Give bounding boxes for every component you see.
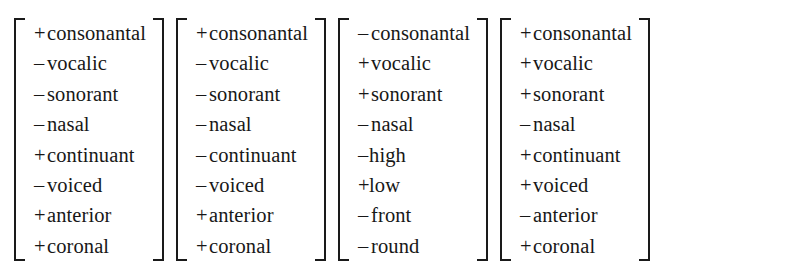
- feature-row: +vocalic: [358, 48, 470, 78]
- right-bracket-icon: [639, 18, 650, 261]
- left-bracket-icon: [14, 18, 25, 261]
- feature-list: +consonantal–vocalic–sonorant–nasal–cont…: [187, 18, 315, 261]
- feature-row: +anterior: [34, 200, 146, 230]
- feature-row: –sonorant: [34, 79, 146, 109]
- feature-row: +sonorant: [358, 79, 470, 109]
- feature-name: sonorant: [209, 79, 280, 109]
- left-bracket-stem: [14, 18, 16, 261]
- feature-name: continuant: [47, 140, 135, 170]
- feature-name: front: [371, 200, 411, 230]
- left-bracket-icon: [338, 18, 349, 261]
- minus-sign: –: [196, 109, 209, 139]
- plus-sign: +: [196, 231, 209, 261]
- feature-row: +consonantal: [520, 18, 632, 48]
- plus-sign: +: [34, 18, 47, 48]
- minus-sign: –: [34, 48, 47, 78]
- feature-row: –nasal: [520, 109, 632, 139]
- feature-name: voiced: [47, 170, 102, 200]
- feature-row: +consonantal: [34, 18, 146, 48]
- feature-row: –high: [358, 140, 470, 170]
- feature-name: vocalic: [371, 48, 431, 78]
- minus-sign: –: [196, 48, 209, 78]
- feature-row: –anterior: [520, 200, 632, 230]
- feature-name: consonantal: [47, 18, 146, 48]
- plus-sign: +: [520, 18, 533, 48]
- feature-name: round: [371, 231, 419, 261]
- left-bracket-stem: [176, 18, 178, 261]
- left-bracket-icon: [176, 18, 187, 261]
- feature-name: anterior: [47, 200, 112, 230]
- feature-row: +sonorant: [520, 79, 632, 109]
- feature-row: +coronal: [520, 231, 632, 261]
- right-bracket-stem: [648, 18, 650, 261]
- minus-sign: –: [520, 109, 533, 139]
- minus-sign: –: [196, 79, 209, 109]
- feature-name: consonantal: [209, 18, 308, 48]
- feature-name: voiced: [209, 170, 264, 200]
- minus-sign: –: [358, 109, 371, 139]
- right-bracket-icon: [153, 18, 164, 261]
- feature-name: high: [369, 140, 406, 170]
- plus-sign: +: [520, 170, 533, 200]
- feature-matrix-row: +consonantal–vocalic–sonorant–nasal+cont…: [0, 0, 800, 279]
- right-bracket-icon: [315, 18, 326, 261]
- feature-name: anterior: [533, 200, 598, 230]
- plus-sign: +: [358, 48, 371, 78]
- minus-sign: –: [520, 200, 533, 230]
- feature-row: –sonorant: [196, 79, 308, 109]
- minus-sign: –: [34, 79, 47, 109]
- feature-name: nasal: [533, 109, 576, 139]
- left-bracket-stem: [338, 18, 340, 261]
- feature-row: –nasal: [196, 109, 308, 139]
- feature-list: –consonantal+vocalic+sonorant–nasal–high…: [349, 18, 477, 261]
- plus-sign: +: [34, 231, 47, 261]
- plus-sign: +: [520, 79, 533, 109]
- feature-matrix-4: +consonantal+vocalic+sonorant–nasal+cont…: [500, 18, 650, 261]
- feature-row: –vocalic: [34, 48, 146, 78]
- plus-sign: +: [520, 231, 533, 261]
- feature-name: coronal: [209, 231, 271, 261]
- feature-list: +consonantal–vocalic–sonorant–nasal+cont…: [25, 18, 153, 261]
- feature-name: vocalic: [47, 48, 107, 78]
- feature-name: nasal: [371, 109, 414, 139]
- feature-name: low: [369, 170, 400, 200]
- feature-matrix-3: –consonantal+vocalic+sonorant–nasal–high…: [338, 18, 488, 261]
- plus-sign: +: [196, 200, 209, 230]
- feature-row: –consonantal: [358, 18, 470, 48]
- minus-sign: –: [196, 140, 209, 170]
- feature-name: coronal: [47, 231, 109, 261]
- feature-row: +vocalic: [520, 48, 632, 78]
- minus-sign: –: [358, 140, 369, 170]
- plus-sign: +: [520, 48, 533, 78]
- feature-row: +coronal: [34, 231, 146, 261]
- feature-row: –front: [358, 200, 470, 230]
- feature-name: nasal: [47, 109, 90, 139]
- feature-name: continuant: [533, 140, 621, 170]
- feature-name: vocalic: [533, 48, 593, 78]
- feature-name: sonorant: [533, 79, 604, 109]
- plus-sign: +: [196, 18, 209, 48]
- feature-row: +continuant: [34, 140, 146, 170]
- minus-sign: –: [358, 231, 371, 261]
- feature-row: –round: [358, 231, 470, 261]
- minus-sign: –: [358, 200, 371, 230]
- right-bracket-icon: [477, 18, 488, 261]
- feature-list: +consonantal+vocalic+sonorant–nasal+cont…: [511, 18, 639, 261]
- minus-sign: –: [196, 170, 209, 200]
- feature-name: sonorant: [47, 79, 118, 109]
- right-bracket-stem: [162, 18, 164, 261]
- minus-sign: –: [34, 109, 47, 139]
- feature-row: –vocalic: [196, 48, 308, 78]
- feature-row: +continuant: [520, 140, 632, 170]
- minus-sign: –: [34, 170, 47, 200]
- feature-name: voiced: [533, 170, 588, 200]
- plus-sign: +: [358, 79, 371, 109]
- feature-row: –continuant: [196, 140, 308, 170]
- feature-name: vocalic: [209, 48, 269, 78]
- feature-row: –nasal: [34, 109, 146, 139]
- feature-name: coronal: [533, 231, 595, 261]
- plus-sign: +: [34, 200, 47, 230]
- feature-name: continuant: [209, 140, 297, 170]
- feature-name: nasal: [209, 109, 252, 139]
- feature-row: +consonantal: [196, 18, 308, 48]
